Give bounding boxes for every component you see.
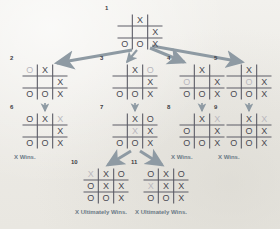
- board-7-cell-r2c3[interactable]: X: [143, 125, 158, 137]
- board-8-cell-r1c1[interactable]: [179, 113, 194, 125]
- board-10-cell-r3c2[interactable]: O: [98, 192, 113, 204]
- board-1-cell-r2c3[interactable]: X: [148, 26, 163, 38]
- board-3-cell-r1c2[interactable]: X: [127, 64, 142, 76]
- board-7-cell-r1c2[interactable]: X: [127, 113, 142, 125]
- board-5-cell-r2c3[interactable]: X: [257, 76, 272, 88]
- board-6-cell-r2c1[interactable]: [22, 125, 37, 137]
- board-9-cell-r1c3[interactable]: X: [257, 113, 272, 125]
- board-9-cell-r1c1[interactable]: [226, 113, 241, 125]
- board-11-cell-r1c2[interactable]: X: [158, 168, 173, 180]
- board-11-cell-r1c1[interactable]: O: [143, 168, 158, 180]
- board-3-cell-r1c3[interactable]: O: [143, 64, 158, 76]
- board-4-cell-r1c3[interactable]: [210, 64, 225, 76]
- board-6-cell-r3c2[interactable]: O: [37, 137, 52, 149]
- board-3-cell-r3c2[interactable]: O: [127, 88, 142, 100]
- board-2-cell-r2c3[interactable]: X: [53, 76, 68, 88]
- board-10[interactable]: XXOOXXOOX: [83, 168, 129, 204]
- board-4-cell-r1c2[interactable]: X: [194, 64, 209, 76]
- board-11-cell-r3c2[interactable]: O: [158, 192, 173, 204]
- board-3-cell-r3c3[interactable]: X: [143, 88, 158, 100]
- board-8[interactable]: XXOXOOX: [179, 113, 225, 149]
- board-8-cell-r1c3[interactable]: X: [210, 113, 225, 125]
- board-7-cell-r1c3[interactable]: O: [143, 113, 158, 125]
- board-8-cell-r3c2[interactable]: O: [194, 137, 209, 149]
- board-5-cell-r3c3[interactable]: X: [257, 88, 272, 100]
- board-3-cell-r2c2[interactable]: [127, 76, 142, 88]
- board-10-cell-r3c3[interactable]: X: [114, 192, 129, 204]
- board-2-cell-r3c2[interactable]: O: [37, 88, 52, 100]
- board-10-cell-r2c3[interactable]: X: [114, 180, 129, 192]
- board-10-cell-r3c1[interactable]: O: [83, 192, 98, 204]
- board-6[interactable]: OXXXOOX: [22, 113, 68, 149]
- board-4-cell-r3c1[interactable]: O: [179, 88, 194, 100]
- board-5-cell-r2c2[interactable]: O: [241, 76, 256, 88]
- board-8-cell-r3c3[interactable]: X: [210, 137, 225, 149]
- board-1-cell-r3c3[interactable]: X: [148, 38, 163, 50]
- board-5-cell-r1c3[interactable]: [257, 64, 272, 76]
- board-11-cell-r2c2[interactable]: X: [158, 180, 173, 192]
- board-5-cell-r1c2[interactable]: X: [241, 64, 256, 76]
- board-1[interactable]: XXOOX: [117, 14, 163, 50]
- board-8-cell-r2c3[interactable]: X: [210, 125, 225, 137]
- board-1-cell-r1c1[interactable]: [117, 14, 132, 26]
- board-9[interactable]: XXOXOOX: [226, 113, 272, 149]
- board-2-cell-r1c2[interactable]: X: [37, 64, 52, 76]
- board-8-cell-r1c2[interactable]: X: [194, 113, 209, 125]
- board-6-cell-r3c3[interactable]: X: [53, 137, 68, 149]
- board-9-cell-r1c2[interactable]: X: [241, 113, 256, 125]
- board-7-cell-r1c1[interactable]: [112, 113, 127, 125]
- board-6-cell-r1c2[interactable]: X: [37, 113, 52, 125]
- board-9-cell-r2c2[interactable]: O: [241, 125, 256, 137]
- board-6-cell-r1c3[interactable]: X: [53, 113, 68, 125]
- board-2-cell-r1c1[interactable]: O: [22, 64, 37, 76]
- board-2-cell-r3c1[interactable]: O: [22, 88, 37, 100]
- board-1-cell-r3c1[interactable]: O: [117, 38, 132, 50]
- board-9-cell-r2c3[interactable]: X: [257, 125, 272, 137]
- board-10-cell-r2c2[interactable]: X: [98, 180, 113, 192]
- board-4-cell-r3c3[interactable]: X: [210, 88, 225, 100]
- board-2-cell-r3c3[interactable]: X: [53, 88, 68, 100]
- board-3[interactable]: XOXOOX: [112, 64, 158, 100]
- board-1-cell-r1c2[interactable]: X: [132, 14, 147, 26]
- board-6-cell-r2c2[interactable]: [37, 125, 52, 137]
- board-2[interactable]: OXXOOX: [22, 64, 68, 100]
- board-1-cell-r2c1[interactable]: [117, 26, 132, 38]
- board-6-cell-r2c3[interactable]: X: [53, 125, 68, 137]
- board-5-cell-r3c2[interactable]: O: [241, 88, 256, 100]
- board-7-cell-r3c1[interactable]: O: [112, 137, 127, 149]
- board-10-cell-r1c2[interactable]: X: [98, 168, 113, 180]
- board-3-cell-r1c1[interactable]: [112, 64, 127, 76]
- board-3-cell-r2c1[interactable]: [112, 76, 127, 88]
- board-5-cell-r1c1[interactable]: [226, 64, 241, 76]
- board-3-cell-r2c3[interactable]: X: [143, 76, 158, 88]
- board-9-cell-r2c1[interactable]: [226, 125, 241, 137]
- board-6-cell-r1c1[interactable]: O: [22, 113, 37, 125]
- board-1-cell-r2c2[interactable]: [132, 26, 147, 38]
- board-7[interactable]: XOXXOOX: [112, 113, 158, 149]
- board-11-cell-r2c3[interactable]: X: [174, 180, 189, 192]
- board-8-cell-r2c2[interactable]: [194, 125, 209, 137]
- board-10-cell-r1c3[interactable]: O: [114, 168, 129, 180]
- board-2-cell-r1c3[interactable]: [53, 64, 68, 76]
- board-7-cell-r2c2[interactable]: X: [127, 125, 142, 137]
- board-4[interactable]: XOXOOX: [179, 64, 225, 100]
- board-7-cell-r2c1[interactable]: [112, 125, 127, 137]
- board-2-cell-r2c1[interactable]: [22, 76, 37, 88]
- board-9-cell-r3c3[interactable]: X: [257, 137, 272, 149]
- board-11-cell-r1c3[interactable]: O: [174, 168, 189, 180]
- board-1-cell-r1c3[interactable]: [148, 14, 163, 26]
- board-11[interactable]: OXOXXXOOX: [143, 168, 189, 204]
- board-4-cell-r2c3[interactable]: X: [210, 76, 225, 88]
- board-7-cell-r3c3[interactable]: X: [143, 137, 158, 149]
- board-3-cell-r3c1[interactable]: O: [112, 88, 127, 100]
- board-10-cell-r2c1[interactable]: O: [83, 180, 98, 192]
- board-4-cell-r1c1[interactable]: [179, 64, 194, 76]
- board-11-cell-r3c3[interactable]: X: [174, 192, 189, 204]
- board-5[interactable]: XOXOOX: [226, 64, 272, 100]
- board-8-cell-r2c1[interactable]: O: [179, 125, 194, 137]
- board-5-cell-r3c1[interactable]: O: [226, 88, 241, 100]
- board-10-cell-r1c1[interactable]: X: [83, 168, 98, 180]
- board-9-cell-r3c2[interactable]: O: [241, 137, 256, 149]
- board-5-cell-r2c1[interactable]: [226, 76, 241, 88]
- board-7-cell-r3c2[interactable]: O: [127, 137, 142, 149]
